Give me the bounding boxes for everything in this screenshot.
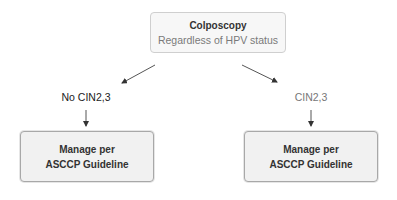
- manage-node-left: Manage per ASCCP Guideline: [20, 131, 154, 182]
- manage-left-line1: Manage per: [59, 142, 115, 157]
- colposcopy-node: Colposcopy Regardless of HPV status: [150, 12, 286, 53]
- colposcopy-title: Colposcopy: [189, 19, 246, 32]
- colposcopy-subtitle: Regardless of HPV status: [158, 33, 278, 47]
- manage-node-right: Manage per ASCCP Guideline: [244, 131, 378, 182]
- arrow-to-no-cin: [122, 65, 155, 83]
- arrow-to-cin: [242, 65, 277, 82]
- manage-right-line2: ASCCP Guideline: [269, 157, 352, 172]
- manage-right-line1: Manage per: [283, 142, 339, 157]
- cin-label: CIN2,3: [295, 91, 328, 103]
- manage-left-line2: ASCCP Guideline: [45, 157, 128, 172]
- no-cin-label: No CIN2,3: [61, 91, 110, 103]
